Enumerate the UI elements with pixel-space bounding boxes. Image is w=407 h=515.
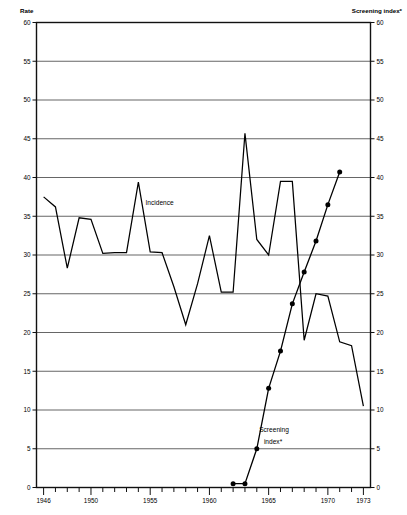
chart-container: Rate Screening index* 051015202530354045… (0, 0, 407, 515)
right-axis-title: Screening index* (352, 7, 403, 14)
series-layer (44, 133, 364, 486)
y-tick-label-left-55: 55 (23, 58, 31, 65)
x-tick-label-1965: 1965 (262, 497, 277, 504)
y-tick-label-left-5: 5 (27, 445, 31, 452)
series-line-2 (233, 172, 340, 484)
y-tick-label-left-60: 60 (23, 19, 31, 26)
series-line-1 (44, 133, 364, 406)
y-tick-label-right-15: 15 (377, 368, 385, 375)
data-point (242, 481, 247, 486)
data-point (337, 170, 342, 175)
axis-titles: Rate Screening index* (20, 7, 403, 14)
data-point (231, 481, 236, 486)
y-tick-label-right-40: 40 (377, 174, 385, 181)
screening-index-label-line2: index* (264, 438, 283, 445)
x-tick-label-1970: 1970 (321, 497, 336, 504)
x-tick-label-1955: 1955 (143, 497, 158, 504)
series-1 (44, 133, 364, 406)
y-tick-label-right-30: 30 (377, 251, 385, 258)
x-axis-ticks: 1946195019551960196519701973 (36, 488, 370, 504)
series-2 (231, 170, 343, 487)
y-tick-label-right-25: 25 (377, 290, 385, 297)
y-tick-label-left-15: 15 (23, 368, 31, 375)
y-tick-label-left-50: 50 (23, 96, 31, 103)
y-tick-label-right-60: 60 (377, 19, 385, 26)
line-chart: Rate Screening index* 051015202530354045… (0, 0, 407, 515)
y-tick-label-left-35: 35 (23, 213, 31, 220)
data-point (266, 386, 271, 391)
gridlines (37, 61, 371, 449)
y-tick-label-right-0: 0 (377, 484, 381, 491)
y-tick-label-left-0: 0 (27, 484, 31, 491)
y-tick-label-left-20: 20 (23, 329, 31, 336)
y-tick-label-left-30: 30 (23, 251, 31, 258)
data-point (290, 301, 295, 306)
y-tick-label-left-25: 25 (23, 290, 31, 297)
y-axis-left-ticks: 051015202530354045505560 (23, 19, 36, 491)
y-tick-label-right-35: 35 (377, 213, 385, 220)
x-tick-label-1973: 1973 (356, 497, 371, 504)
y-tick-label-right-5: 5 (377, 445, 381, 452)
data-point (254, 446, 259, 451)
left-axis-title: Rate (20, 7, 34, 14)
y-tick-label-right-45: 45 (377, 135, 385, 142)
data-point (314, 239, 319, 244)
y-tick-label-right-20: 20 (377, 329, 385, 336)
y-tick-label-left-45: 45 (23, 135, 31, 142)
x-tick-label-1960: 1960 (202, 497, 217, 504)
data-point (302, 270, 307, 275)
y-tick-label-left-40: 40 (23, 174, 31, 181)
y-tick-label-left-10: 10 (23, 406, 31, 413)
x-tick-label-1950: 1950 (84, 497, 99, 504)
annotation-layer: IncidenceScreeningindex* (145, 199, 289, 445)
y-tick-label-right-55: 55 (377, 58, 385, 65)
incidence-label: Incidence (145, 199, 174, 206)
y-tick-label-right-50: 50 (377, 96, 385, 103)
data-point (278, 349, 283, 354)
screening-index-label-line1: Screening (259, 426, 289, 434)
y-axis-right-ticks: 051015202530354045505560 (371, 19, 385, 491)
x-tick-label-1946: 1946 (36, 497, 51, 504)
y-tick-label-right-10: 10 (377, 406, 385, 413)
data-point (325, 202, 330, 207)
